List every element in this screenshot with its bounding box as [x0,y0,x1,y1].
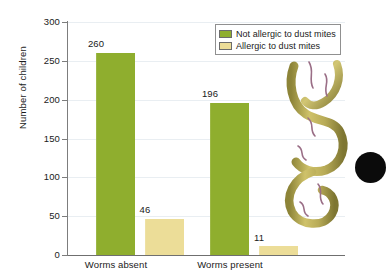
legend-swatch-green [219,30,232,38]
y-tick-label-250: 250 [30,55,60,66]
legend: Not allergic to dust mites Allergic to d… [215,24,341,55]
legend-item-allergic[interactable]: Allergic to dust mites [219,40,337,51]
y-tick-label-250-wrap: 250 [26,55,60,67]
bar-worms-absent-allergic[interactable] [145,219,184,255]
chart-figure: 300 250 200 150 100 50 0 Number of child… [0,0,390,276]
legend-label-allergic: Allergic to dust mites [236,41,320,51]
y-tick-label-100-wrap: 100 [26,171,60,183]
legend-label-not-allergic: Not allergic to dust mites [236,29,336,39]
y-tick-100 [62,177,68,178]
y-tick-label-200-wrap: 200 [26,94,60,106]
y-tick-250 [62,61,68,62]
y-tick-150 [62,139,68,140]
bar-worms-present-allergic[interactable] [259,246,298,255]
bar-value-worms-present-not-allergic: 196 [190,88,230,99]
y-axis-title: Number of children [17,18,28,158]
scale-marker-circle [355,152,386,183]
gridline-300 [68,22,345,23]
y-tick-label-300: 300 [30,16,60,27]
y-tick-label-50-wrap: 50 [26,210,60,222]
bar-value-worms-absent-not-allergic: 260 [76,38,116,49]
legend-item-not-allergic[interactable]: Not allergic to dust mites [219,28,337,39]
y-tick-label-0-wrap: 0 [26,249,60,261]
bar-value-worms-present-allergic: 11 [239,232,279,243]
y-tick-label-150-wrap: 150 [26,133,60,145]
bar-value-worms-absent-allergic: 46 [125,204,165,215]
y-tick-label-0: 0 [30,249,60,260]
bar-worms-absent-not-allergic[interactable] [96,53,135,255]
y-tick-label-50: 50 [30,210,60,221]
plot-area [68,22,345,255]
y-tick-50 [62,216,68,217]
y-tick-label-300-wrap: 300 [26,16,60,28]
y-tick-label-200: 200 [30,94,60,105]
y-tick-300 [62,22,68,23]
y-tick-0 [62,255,68,256]
y-tick-label-100: 100 [30,171,60,182]
legend-swatch-tan [219,42,232,50]
y-tick-label-150: 150 [30,133,60,144]
x-axis-line [67,255,345,256]
x-category-label-worms-present: Worms present [175,259,285,270]
y-tick-200 [62,100,68,101]
x-category-label-worms-absent: Worms absent [61,259,171,270]
